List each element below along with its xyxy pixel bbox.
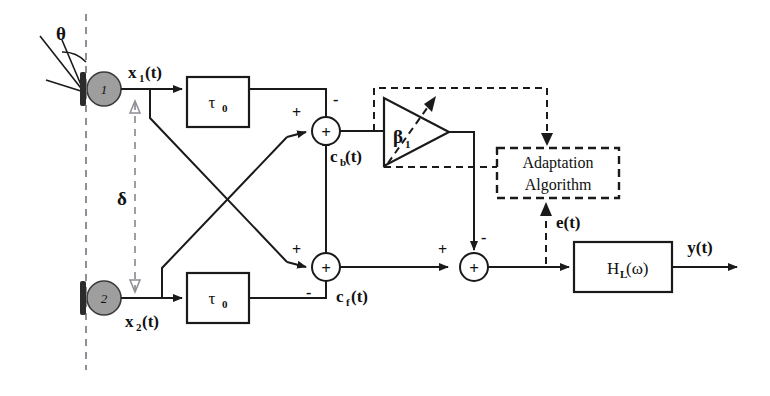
lower-summer-minus-sign: - — [306, 284, 311, 301]
adaptation-algorithm-line1: Adaptation — [522, 154, 593, 172]
lower-summer-plus-sign: + — [292, 241, 301, 258]
delay-block-lower[interactable] — [187, 273, 249, 323]
dashed-control-arrowhead — [541, 133, 553, 146]
output-summer-minus-sign: - — [481, 229, 486, 246]
incoming-wave-ray — [40, 36, 84, 92]
cross-wire-sensor1-arrowhead — [287, 262, 306, 267]
cf-signal-suffix: (t) — [351, 287, 368, 306]
theta-angle-arc — [62, 52, 86, 62]
sensor-2-signal-suffix: (t) — [142, 312, 159, 331]
upper-summer-minus-sign: - — [333, 91, 338, 108]
sensor-2-baffle — [80, 281, 86, 315]
sensor-1-number: 1 — [101, 82, 108, 97]
sensor-1-signal-subscript: 1 — [139, 72, 145, 84]
delay-block-upper-label: τ — [209, 93, 216, 112]
delta-label: δ — [117, 188, 127, 209]
cf-signal-subscript: f — [346, 296, 350, 308]
output-summer-plus-sign: + — [438, 241, 447, 258]
output-summer-symbol: + — [469, 259, 479, 278]
output-filter-block[interactable] — [574, 242, 672, 292]
delay-block-upper-subscript: 0 — [222, 102, 228, 114]
upper-summer-symbol: + — [321, 123, 331, 142]
lower-summer-symbol: + — [321, 259, 331, 278]
theta-label: θ — [56, 23, 66, 44]
diagram-canvas: θ 1 x 1 (t) τ 0 2 x 2 (t) τ 0 δ + + - c … — [0, 0, 770, 396]
cross-wire-sensor2-arrowhead — [287, 132, 306, 137]
sensor-1-baffle — [80, 72, 86, 106]
wire-amplifier-to-output-summer — [449, 132, 474, 244]
wire-delay1-to-lower-summer-minus — [249, 89, 326, 279]
sensor-1-signal-suffix: (t) — [145, 63, 162, 82]
cb-signal-label: c — [330, 147, 338, 166]
error-signal-arrowhead — [540, 202, 552, 216]
beamformer-diagram: θ 1 x 1 (t) τ 0 2 x 2 (t) τ 0 δ + + - c … — [0, 0, 770, 396]
sensor-2-signal-label: x — [125, 312, 134, 331]
sensor-2-number: 2 — [101, 291, 108, 306]
delay-block-lower-subscript: 0 — [222, 298, 228, 310]
amplifier-gain-subscript: 1 — [405, 138, 411, 150]
upper-summer-plus-sign: + — [292, 104, 301, 121]
amplifier-gain-label: β — [393, 126, 403, 147]
cb-signal-suffix: (t) — [345, 147, 362, 166]
cf-signal-label: c — [336, 287, 344, 306]
output-filter-suffix: (ω) — [626, 259, 649, 278]
error-signal-label: e(t) — [556, 213, 581, 232]
delay-block-lower-label: τ — [209, 289, 216, 308]
output-signal-label: y(t) — [687, 238, 712, 257]
sensor-1-signal-label: x — [128, 63, 137, 82]
delay-block-upper[interactable] — [187, 77, 249, 127]
adaptation-algorithm-line2: Algorithm — [525, 176, 592, 194]
output-filter-label: H — [607, 259, 619, 278]
